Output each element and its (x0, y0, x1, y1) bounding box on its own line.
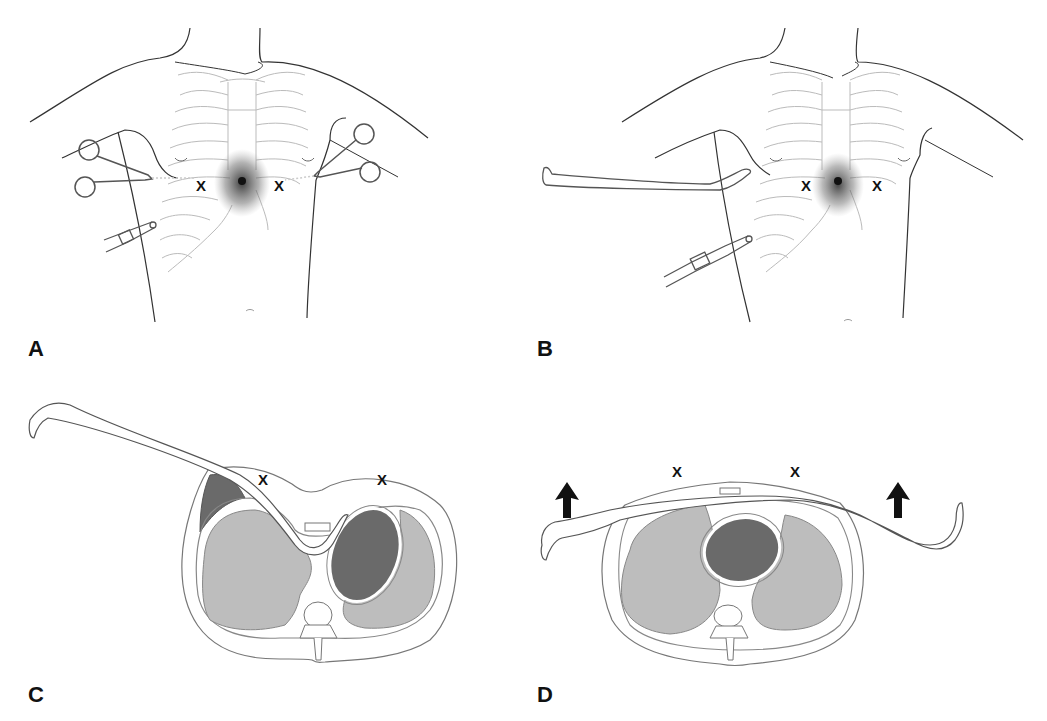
chest-tube-icon (104, 222, 156, 252)
panel-b: X X B (520, 0, 1047, 360)
chest-tube-icon (664, 236, 752, 287)
ribs-right (850, 72, 904, 230)
panel-label-b: B (537, 336, 553, 362)
panel-label-d: D (537, 682, 553, 708)
cross-section-c (0, 360, 520, 721)
marker-x-right: X (872, 177, 882, 194)
hemostat-right-icon (285, 124, 380, 182)
marker-x-left: X (672, 463, 682, 480)
center-dot (238, 177, 246, 185)
center-dot (834, 177, 842, 185)
panel-label-a: A (28, 336, 44, 362)
marker-x-right: X (274, 177, 284, 194)
hemostat-left-icon (75, 140, 195, 197)
ribs-right (256, 72, 308, 230)
marker-x-left: X (196, 177, 206, 194)
panel-c: X X C (0, 360, 520, 721)
arrow-up-left-icon (552, 480, 582, 520)
panel-label-c: C (28, 682, 44, 708)
panel-d: X X D (520, 360, 1047, 721)
marker-x-right: X (790, 463, 800, 480)
marker-x-right: X (377, 471, 387, 488)
arrow-up-right-icon (883, 480, 913, 520)
marker-x-left: X (258, 471, 268, 488)
chest-illustration-b (520, 0, 1047, 360)
cross-section-d (520, 360, 1047, 721)
chest-illustration-a (0, 0, 520, 360)
marker-x-left: X (801, 177, 811, 194)
panel-a: X X A (0, 0, 520, 360)
